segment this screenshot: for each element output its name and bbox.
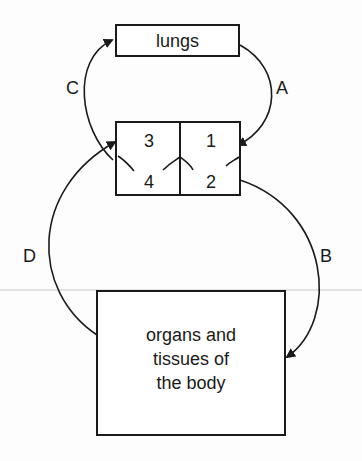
arrow-label-c: C [66,78,79,98]
arrow-c [84,40,113,160]
body-label-line-1: organs and [146,325,236,345]
circulation-diagram: lungs 3 1 4 2 organs and tissues of the … [0,0,362,461]
lungs-label: lungs [156,31,199,51]
lungs-node: lungs [116,25,239,56]
arrow-label-a: A [276,78,288,98]
heart-node: 3 1 4 2 [116,122,240,195]
arrow-label-d: D [23,246,36,266]
body-label-line-3: the body [156,373,225,393]
chamber-2-label: 2 [206,172,216,192]
body-node: organs and tissues of the body [97,291,285,435]
chamber-4-label: 4 [144,172,154,192]
body-label-line-2: tissues of [153,349,230,369]
arrow-label-b: B [320,246,332,266]
arrow-a [238,45,272,145]
chamber-3-label: 3 [144,131,154,151]
chamber-1-label: 1 [206,131,216,151]
